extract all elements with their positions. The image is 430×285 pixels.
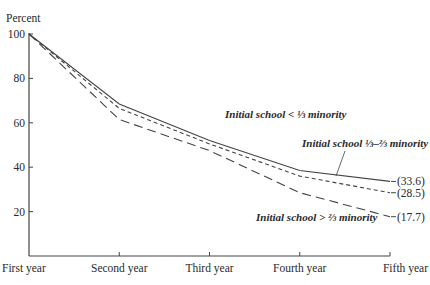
annotation-series-3: Initial school > ⅔ minority [255, 211, 378, 223]
line-chart: Percent 20406080100 First yearSecond yea… [0, 0, 430, 285]
x-tick-label: Fourth year [273, 262, 327, 275]
y-tick-label: 60 [14, 117, 26, 129]
end-value-label: (17.7) [397, 211, 425, 224]
y-tick-label: 80 [14, 72, 26, 84]
series-annotations: (33.6)(28.5)(17.7)Initial school < ⅓ min… [224, 108, 428, 224]
y-tick-label: 100 [8, 28, 26, 40]
annotation-leader [336, 151, 345, 176]
y-axis-label: Percent [6, 12, 41, 24]
y-tick-label: 20 [14, 206, 26, 218]
end-value-label: (28.5) [397, 187, 425, 200]
annotation-series-2: Initial school ⅓–⅔ minority [301, 137, 428, 149]
x-tick-label: First year [2, 262, 46, 275]
x-tick-label: Fifth year [383, 262, 428, 275]
x-tick-label: Second year [91, 262, 148, 275]
series-line [29, 34, 390, 217]
annotation-series-1: Initial school < ⅓ minority [224, 108, 347, 120]
series-lines [29, 34, 390, 217]
y-tick-label: 40 [14, 161, 26, 173]
x-tick-label: Third year [185, 262, 233, 275]
